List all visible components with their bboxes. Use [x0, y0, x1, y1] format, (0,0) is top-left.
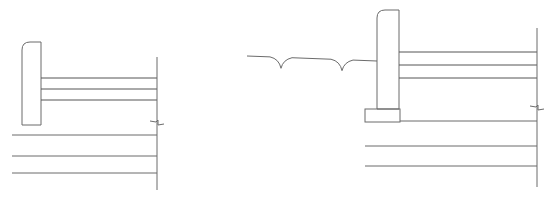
technical-drawing — [0, 0, 553, 202]
footing-outline — [365, 109, 400, 122]
ground-surface-line — [247, 56, 377, 71]
curb-outline — [22, 42, 41, 125]
curb-section-right — [247, 10, 544, 187]
curb-outline — [377, 10, 399, 109]
curb-section-left — [12, 42, 164, 190]
